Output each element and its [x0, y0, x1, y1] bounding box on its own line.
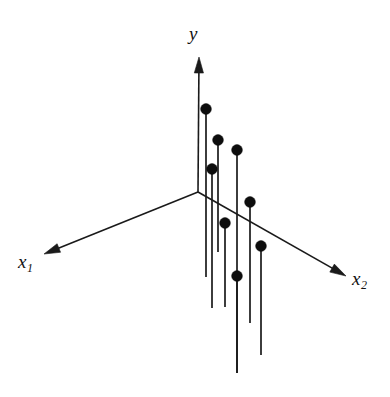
axis-x1-arrowhead [44, 244, 61, 254]
data-point-8 [232, 271, 243, 282]
data-point-7 [256, 241, 267, 252]
axis-label-x2-base: x [352, 268, 360, 289]
data-point-group [201, 104, 267, 282]
data-point-2 [213, 135, 224, 146]
axis-label-x2: x2 [352, 269, 366, 288]
axis-label-x1-base: x [18, 251, 26, 272]
data-point-3 [232, 145, 243, 156]
axis-x1-line [52, 192, 198, 251]
axis-label-x2-subscript: 2 [361, 278, 367, 292]
data-point-5 [245, 197, 256, 208]
data-point-6 [220, 218, 231, 229]
axis-y-arrowhead [194, 57, 203, 73]
scatter-figure-3d: y x1 x2 [0, 0, 390, 397]
axis-x2-line [198, 192, 338, 272]
axis-y [194, 57, 203, 192]
data-point-1 [201, 104, 212, 115]
axis-x1 [44, 192, 198, 254]
axis-label-x1-subscript: 1 [27, 261, 33, 275]
axis-x2-arrowhead [330, 264, 346, 276]
axis-label-y: y [189, 24, 197, 43]
figure-canvas [0, 0, 390, 397]
axis-x2 [198, 192, 346, 276]
axis-label-y-text: y [189, 23, 197, 44]
data-point-4 [207, 164, 218, 175]
axis-label-x1: x1 [18, 252, 32, 271]
axis-y-line [198, 66, 199, 192]
